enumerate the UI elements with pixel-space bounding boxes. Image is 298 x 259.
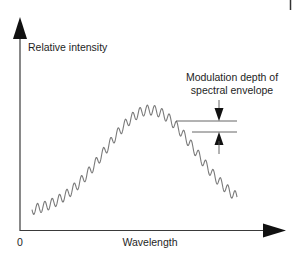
- annotation-line-1: Modulation depth of: [186, 71, 278, 83]
- origin-label: 0: [17, 236, 23, 248]
- x-axis-label: Wavelength: [122, 236, 177, 248]
- y-axis-arrow-icon: [13, 17, 27, 39]
- spectrum-diagram: [0, 0, 298, 259]
- down-arrow-icon: [215, 108, 224, 121]
- y-axis-label: Relative intensity: [28, 41, 107, 53]
- x-axis-arrow-icon: [263, 224, 286, 238]
- modulated-spectrum-curve: [32, 105, 237, 214]
- annotation-line-2: spectral envelope: [191, 84, 273, 96]
